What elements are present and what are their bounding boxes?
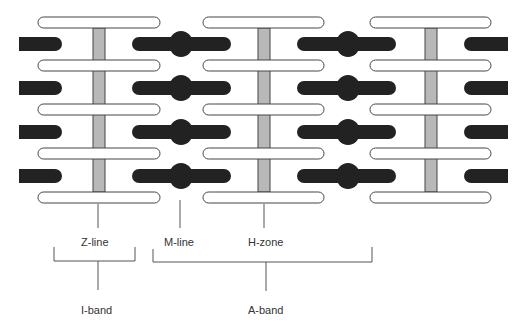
z-line-label: Z-line — [81, 236, 109, 248]
thin-filament — [38, 192, 160, 203]
thick-filament — [19, 81, 62, 95]
i-band-label: I-band — [81, 304, 112, 316]
m-line-bulge — [169, 163, 193, 189]
m-line-bulge — [336, 163, 360, 189]
a-band-label: A-band — [248, 304, 283, 316]
thick-filament — [464, 37, 508, 51]
thick-filament — [19, 37, 62, 51]
thin-filament — [203, 60, 324, 71]
a-band-bracket — [153, 247, 372, 262]
thin-filament — [38, 17, 160, 28]
m-line-bulge — [336, 31, 360, 57]
thick-filament — [464, 125, 508, 139]
m-line-bulge — [169, 119, 193, 145]
thin-filament — [370, 60, 491, 71]
m-line-bulge — [336, 119, 360, 145]
m-line-label: M-line — [164, 236, 194, 248]
thin-filament — [38, 104, 160, 115]
m-line-bulge — [336, 75, 360, 101]
m-line-bulge — [169, 75, 193, 101]
m-line-bulge — [169, 31, 193, 57]
thick-filament — [464, 81, 508, 95]
thick-filament — [464, 169, 508, 183]
i-band-bracket — [54, 247, 135, 261]
thin-filament — [370, 104, 491, 115]
h-zone-label: H-zone — [248, 236, 283, 248]
thin-filament — [370, 192, 491, 203]
thin-filament — [203, 148, 324, 159]
thin-filament — [370, 148, 491, 159]
thin-filament — [203, 192, 324, 203]
thick-filament — [19, 125, 62, 139]
sarcomere-diagram: Z-line M-line H-zone I-band A-band — [0, 0, 524, 332]
thin-filament — [203, 17, 324, 28]
thin-filament — [38, 60, 160, 71]
thick-filament — [19, 169, 62, 183]
thin-filament — [203, 104, 324, 115]
thin-filament — [370, 17, 491, 28]
thin-filament — [38, 148, 160, 159]
